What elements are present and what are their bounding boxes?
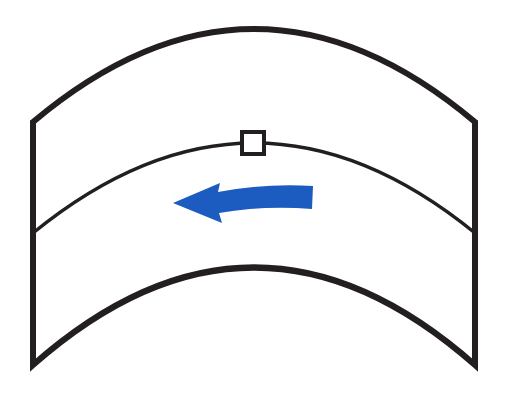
diagram-canvas — [0, 0, 510, 393]
square-marker — [242, 132, 264, 154]
flow-arrow-left-icon — [173, 183, 313, 223]
